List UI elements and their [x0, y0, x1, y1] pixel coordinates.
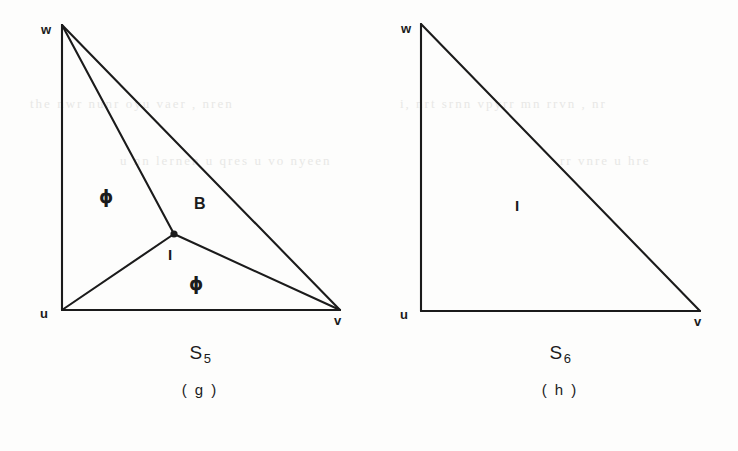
figure-page: the nwr nunr oyu vaer , nren i, nrt srnn…: [0, 0, 738, 451]
edge-u-junction-s5: [62, 234, 174, 310]
vertex-label-u-s6: u: [400, 307, 408, 322]
caption-s5: S5: [140, 342, 260, 364]
caption-g-index: ( g ): [140, 381, 260, 398]
edge-w-junction-s5: [62, 25, 174, 234]
vertex-label-w-s6: w: [401, 21, 411, 36]
caption-h-index: ( h ): [500, 381, 620, 398]
region-label-phi-upper-s5: ϕ: [99, 186, 113, 207]
edge-v-junction-s5: [174, 234, 340, 310]
steiner-point-s5: [170, 230, 177, 237]
region-label-i-s5: I: [168, 246, 172, 263]
caption-s6: S6: [500, 342, 620, 364]
vertex-label-v-s5: v: [334, 313, 341, 328]
edge-w-v-s6: [421, 24, 700, 311]
vertex-label-w-s5: w: [41, 22, 51, 37]
vertex-label-u-s5: u: [40, 306, 48, 321]
region-label-i-s6: I: [515, 197, 519, 214]
caption-s5-name: S5: [190, 342, 211, 363]
region-label-phi-lower-s5: ϕ: [189, 273, 203, 294]
caption-s6-name: S6: [550, 342, 571, 363]
figure-linework: [0, 0, 738, 451]
region-label-b-s5: B: [194, 195, 206, 213]
vertex-label-v-s6: v: [694, 314, 701, 329]
edge-w-v-s5: [62, 25, 340, 310]
